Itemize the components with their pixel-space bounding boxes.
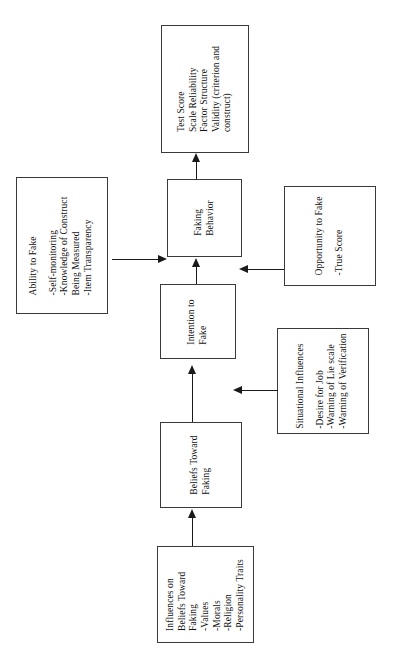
node-opportunity-to-fake-text: Opportunity to Fake -True Score bbox=[314, 197, 345, 276]
edge-intention-to-faking-head bbox=[192, 258, 200, 267]
influences-on-beliefs-line-3: -Religion bbox=[223, 559, 235, 631]
node-test-score-text: Test Score Scale Reliability Factor Stru… bbox=[176, 46, 234, 132]
test-score-line-1: Scale Reliability bbox=[188, 46, 200, 132]
influences-on-beliefs-heading-1: Influences on bbox=[164, 559, 176, 631]
situational-influences-line-1: -Desire for Job bbox=[315, 333, 327, 428]
intention-to-fake-line-1: Intention to bbox=[186, 299, 198, 344]
edge-ability-to-faking-line bbox=[112, 259, 159, 260]
node-situational-influences-text: Situational Influences -Desire for Job -… bbox=[295, 333, 350, 428]
edge-ability-to-faking-head bbox=[158, 255, 167, 263]
edge-beliefs-to-intention-head bbox=[188, 365, 196, 374]
node-faking-behavior-text: Faking Behavior bbox=[193, 200, 216, 236]
ability-to-fake-line-3: Being Measured bbox=[72, 196, 84, 295]
ability-to-fake-line-1: -Self-monitoring bbox=[48, 196, 60, 295]
node-faking-behavior[interactable]: Faking Behavior bbox=[167, 179, 242, 257]
edge-influences-to-beliefs-head bbox=[188, 509, 196, 518]
opportunity-to-fake-line-1: -True Score bbox=[334, 197, 346, 276]
edge-beliefs-to-intention-line bbox=[192, 374, 193, 422]
beliefs-toward-faking-line-1: Beliefs Toward bbox=[189, 435, 201, 494]
faking-behavior-line-1: Faking bbox=[193, 200, 205, 236]
ability-to-fake-heading: Ability to Fake bbox=[28, 196, 40, 295]
situational-influences-line-2: -Warning of Lie scale bbox=[327, 333, 339, 428]
situational-influences-line-3: -Warning of Verification bbox=[339, 333, 351, 428]
node-intention-to-fake-text: Intention to Fake bbox=[186, 299, 209, 344]
diagram-canvas: Test Score Scale Reliability Factor Stru… bbox=[0, 0, 394, 656]
node-situational-influences[interactable]: Situational Influences -Desire for Job -… bbox=[277, 328, 369, 434]
test-score-line-3: Validity (criterion and bbox=[211, 46, 223, 132]
ability-to-fake-line-4: -Item Transparency bbox=[84, 196, 96, 295]
influences-on-beliefs-line-1: -Values bbox=[199, 559, 211, 631]
opportunity-to-fake-heading: Opportunity to Fake bbox=[314, 197, 326, 276]
node-opportunity-to-fake[interactable]: Opportunity to Fake -True Score bbox=[284, 186, 376, 286]
node-ability-to-fake-text: Ability to Fake -Self-monitoring -Knowle… bbox=[28, 196, 95, 295]
faking-behavior-line-2: Behavior bbox=[205, 200, 217, 236]
influences-on-beliefs-line-4: -Personality Traits bbox=[235, 559, 247, 631]
node-beliefs-toward-faking-text: Beliefs Toward Faking bbox=[189, 435, 212, 494]
node-beliefs-toward-faking[interactable]: Beliefs Toward Faking bbox=[160, 422, 242, 508]
situational-influences-heading: Situational Influences bbox=[295, 333, 307, 428]
edge-faking-to-testscore-head bbox=[192, 153, 200, 162]
influences-on-beliefs-heading-2: Beliefs Toward bbox=[176, 559, 188, 631]
beliefs-toward-faking-line-2: Faking bbox=[201, 435, 213, 494]
edge-influences-to-beliefs-line bbox=[192, 518, 193, 546]
edge-opportunity-to-faking-line bbox=[248, 269, 284, 270]
edge-situational-to-intention-head bbox=[233, 386, 242, 394]
ability-to-fake-line-2: -Knowledge of Construct bbox=[60, 196, 72, 295]
edge-opportunity-to-faking-head bbox=[239, 265, 248, 273]
edge-faking-to-testscore-line bbox=[196, 162, 197, 179]
influences-on-beliefs-line-2: -Morals bbox=[211, 559, 223, 631]
influences-on-beliefs-heading-3: Faking bbox=[188, 559, 200, 631]
edge-intention-to-faking-line bbox=[196, 267, 197, 284]
node-influences-on-beliefs-text: Influences on Beliefs Toward Faking -Val… bbox=[164, 559, 246, 631]
node-influences-on-beliefs[interactable]: Influences on Beliefs Toward Faking -Val… bbox=[157, 546, 254, 643]
edge-situational-to-intention-line bbox=[242, 390, 278, 391]
node-test-score[interactable]: Test Score Scale Reliability Factor Stru… bbox=[161, 25, 249, 153]
node-ability-to-fake[interactable]: Ability to Fake -Self-monitoring -Knowle… bbox=[16, 177, 108, 314]
test-score-line-4: construct) bbox=[222, 46, 234, 132]
test-score-line-2: Factor Structure bbox=[199, 46, 211, 132]
node-intention-to-fake[interactable]: Intention to Fake bbox=[160, 284, 236, 359]
intention-to-fake-line-2: Fake bbox=[198, 299, 210, 344]
test-score-heading: Test Score bbox=[176, 46, 188, 132]
